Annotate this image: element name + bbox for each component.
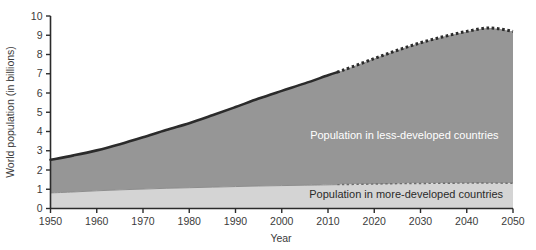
x-axis-tick-label: 2030	[409, 215, 433, 227]
x-axis-tick-label: 1990	[224, 215, 248, 227]
y-axis-tick-label: 6	[37, 87, 43, 99]
x-axis-tick-label: 2010	[316, 215, 340, 227]
x-axis-tick-label: 1960	[85, 215, 109, 227]
x-axis-title: Year	[270, 232, 292, 244]
x-axis-tick-label: 2040	[455, 215, 479, 227]
y-axis-tick-label: 5	[37, 106, 43, 118]
y-axis-tick-label: 4	[37, 125, 43, 137]
y-axis-tick-label: 0	[37, 202, 43, 214]
y-axis-tick-label: 10	[31, 10, 43, 22]
population-area-chart: 012345678910 195019601970198019902000201…	[0, 0, 536, 250]
y-axis-tick-label: 2	[37, 164, 43, 176]
series-label-less-developed: Population in less-developed countries	[310, 129, 499, 141]
y-axis-title: World population (in billions)	[4, 46, 16, 178]
y-axis-tick-label: 8	[37, 48, 43, 60]
x-axis-tick-label: 1950	[39, 215, 63, 227]
y-axis-tick-label: 9	[37, 29, 43, 41]
y-axis-tick-label: 3	[37, 144, 43, 156]
x-axis-tick-label: 2050	[501, 215, 525, 227]
x-axis-tick-label: 1980	[178, 215, 202, 227]
series-label-more-developed: Population in more-developed countries	[309, 188, 503, 200]
chart-canvas: 012345678910 195019601970198019902000201…	[0, 0, 536, 250]
y-axis-tick-label: 7	[37, 67, 43, 79]
y-axis-tick-label: 1	[37, 183, 43, 195]
x-axis-tick-label: 1970	[131, 215, 155, 227]
x-axis-tick-label: 2000	[270, 215, 294, 227]
x-axis-tick-label: 2020	[363, 215, 387, 227]
